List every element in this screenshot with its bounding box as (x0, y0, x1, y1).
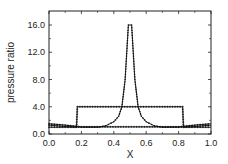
x-tick-label: 0.4 (108, 138, 121, 148)
x-tick-label: 0.6 (140, 138, 153, 148)
y-tick-label: 8.0 (32, 75, 45, 85)
series-line-0 (49, 25, 211, 127)
plot-frame (49, 11, 211, 134)
series-line-1 (49, 107, 211, 127)
y-tick-label: 4.0 (32, 102, 45, 112)
x-tick-label: 0.0 (43, 138, 56, 148)
y-tick-label: 12.0 (27, 47, 45, 57)
x-tick-label: 0.2 (75, 138, 88, 148)
y-tick-label: 16.0 (27, 20, 45, 30)
x-tick-label: 0.8 (172, 138, 185, 148)
x-axis-label: X (127, 149, 134, 160)
pressure-ratio-chart: 0.04.08.012.016.00.00.20.40.60.81.0Xpres… (0, 0, 228, 164)
series-markers-0 (48, 24, 209, 128)
y-axis-label: pressure ratio (5, 41, 16, 103)
x-tick-label: 1.0 (205, 138, 218, 148)
series-markers-1 (48, 106, 209, 128)
